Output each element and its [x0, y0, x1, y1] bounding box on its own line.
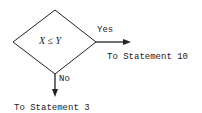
- yes-branch-label: Yes: [97, 26, 113, 35]
- yes-arrowhead-icon: [123, 39, 131, 45]
- no-branch-target: To Statement 3: [14, 104, 90, 113]
- decision-condition: X ≤ Y: [39, 36, 61, 46]
- no-branch-label: No: [59, 75, 70, 84]
- no-arrowhead-icon: [52, 89, 58, 97]
- yes-branch-target: To Statement 10: [107, 53, 188, 62]
